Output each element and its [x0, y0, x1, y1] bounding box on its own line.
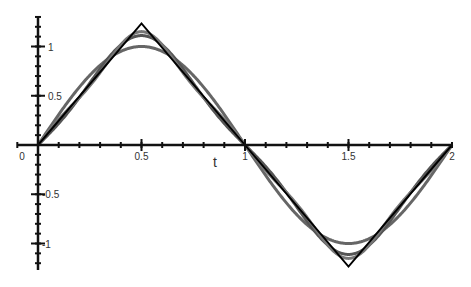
x-tick-label: 1.5	[342, 151, 356, 162]
x-tick-label: 0.5	[135, 151, 149, 162]
x-tick-label: 1	[242, 151, 248, 162]
x-tick-label: 0	[19, 151, 25, 162]
x-axis-title: t	[213, 154, 217, 170]
y-tick-label: 1	[48, 42, 54, 53]
axes: 00.511.5210.5-0.5-1	[17, 17, 455, 270]
y-tick-label: -0.5	[42, 189, 60, 200]
chart-canvas: 00.511.5210.5-0.5-1 t	[0, 0, 471, 287]
y-tick-label: -1	[42, 239, 51, 250]
y-tick-label: 0.5	[48, 91, 62, 102]
x-tick-label: 2	[449, 151, 455, 162]
